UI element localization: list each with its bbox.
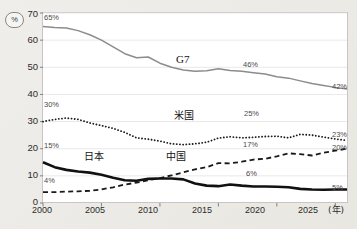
value-label-japan-mid: 6% <box>246 170 257 178</box>
value-label-us-start: 30% <box>44 101 59 109</box>
series-label-us: 米国 <box>174 111 194 121</box>
value-label-china-mid: 17% <box>243 141 258 149</box>
series-label-china: 中国 <box>166 152 186 162</box>
series-label-g7: G7 <box>176 54 189 65</box>
value-label-g7-start: 65% <box>44 14 59 22</box>
series-line-米国 <box>43 118 347 145</box>
value-label-us-mid: 25% <box>244 110 259 118</box>
data-series-group <box>43 27 347 193</box>
chart-figure: % 70 60 50 40 30 20 10 0 2000 2005 2010 … <box>0 0 357 229</box>
value-label-us-end: 23% <box>332 131 347 139</box>
value-label-japan-end: 5% <box>332 184 343 192</box>
value-label-china-start: 4% <box>44 177 55 185</box>
y-axis-ticks-group <box>40 13 43 203</box>
value-label-g7-mid: 46% <box>243 61 258 69</box>
value-label-japan-start: 15% <box>44 142 59 150</box>
value-label-china-end: 20% <box>332 144 347 152</box>
x-axis-ticks-group <box>43 203 335 207</box>
series-line-G7 <box>43 27 347 89</box>
series-label-japan: 日本 <box>84 152 104 162</box>
value-label-g7-end: 42% <box>332 83 347 91</box>
